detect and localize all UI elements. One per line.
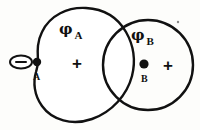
region-a-outline bbox=[34, 8, 134, 122]
point-a-label: A bbox=[33, 72, 40, 82]
region-b-potential-label: φB bbox=[131, 28, 152, 43]
point-b-dot bbox=[139, 59, 148, 68]
point-a-dot bbox=[33, 58, 41, 66]
region-a-plus-sign: + bbox=[72, 55, 82, 72]
region-a-potential-label: φA bbox=[59, 22, 81, 37]
phi-a-symbol: φ bbox=[59, 20, 73, 38]
scan-speck-icon bbox=[177, 21, 179, 23]
phi-b-subscript: B bbox=[147, 35, 154, 47]
phi-b-symbol: φ bbox=[131, 26, 145, 44]
phi-a-subscript: A bbox=[75, 29, 83, 41]
region-b-plus-sign: + bbox=[163, 57, 173, 74]
figure-canvas: φA + φB + A B bbox=[0, 0, 200, 130]
point-b-label: B bbox=[141, 74, 148, 84]
